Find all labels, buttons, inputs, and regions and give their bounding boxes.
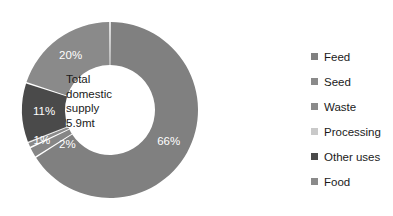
legend-swatch-icon	[311, 178, 318, 185]
legend-item-label: Food	[324, 176, 350, 188]
legend-swatch-icon	[311, 103, 318, 110]
legend-item-feed[interactable]: Feed	[311, 44, 393, 69]
donut-center-label: Total domestic supply 5.9mt	[66, 72, 156, 130]
center-label-line-1: Total	[66, 72, 156, 87]
center-label-line-3: supply	[66, 101, 156, 116]
legend-item-seed[interactable]: Seed	[311, 69, 393, 94]
legend-swatch-icon	[311, 153, 318, 160]
legend-item-processing[interactable]: Processing	[311, 119, 393, 144]
legend-item-label: Waste	[324, 101, 356, 113]
donut-chart-figure: 66%2%1%0%11%20% Total domestic supply 5.…	[0, 0, 393, 216]
legend-swatch-icon	[311, 128, 318, 135]
legend-item-label: Seed	[324, 76, 351, 88]
legend-swatch-icon	[311, 78, 318, 85]
legend-item-waste[interactable]: Waste	[311, 94, 393, 119]
slice-data-label-waste: 1%	[34, 134, 51, 146]
slice-data-label-seed: 2%	[59, 138, 76, 150]
slice-data-label-food: 20%	[59, 49, 82, 61]
slice-data-label-feed: 66%	[157, 135, 180, 147]
legend-item-food[interactable]: Food	[311, 169, 393, 194]
center-label-line-2: domestic	[66, 87, 156, 102]
slice-data-label-other-uses: 11%	[33, 105, 55, 117]
donut-plot-area: 66%2%1%0%11%20% Total domestic supply 5.…	[0, 0, 230, 216]
legend-swatch-icon	[311, 53, 318, 60]
legend-item-label: Feed	[324, 51, 350, 63]
center-label-line-4: 5.9mt	[66, 116, 156, 131]
legend-item-label: Other uses	[324, 151, 380, 163]
legend-item-label: Processing	[324, 126, 381, 138]
legend-item-other-uses[interactable]: Other uses	[311, 144, 393, 169]
chart-legend: FeedSeedWasteProcessingOther usesFood	[311, 44, 393, 194]
